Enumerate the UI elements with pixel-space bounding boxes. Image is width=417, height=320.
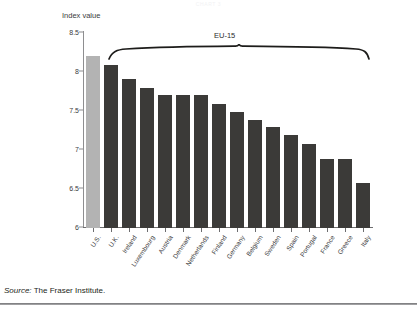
x-axis-label-text: U.K. — [107, 234, 120, 248]
x-axis-label-text: Spain — [285, 234, 300, 252]
x-axis-label-text: Austria — [157, 234, 174, 255]
bar-slot — [320, 33, 334, 228]
bar-portugal[interactable] — [302, 144, 316, 228]
x-axis-tick-mark — [309, 228, 310, 232]
x-axis-label-text: Finland — [210, 234, 228, 256]
y-axis-tick-mark — [79, 110, 83, 111]
source-text: The Fraser Institute. — [34, 286, 106, 295]
x-axis-tick-mark — [183, 228, 184, 232]
y-axis-tick-mark — [79, 32, 83, 33]
bar-luxembourg[interactable] — [140, 88, 154, 228]
source-prefix: Source: — [4, 286, 32, 295]
x-axis-tick-mark — [273, 228, 274, 232]
bar-slot — [176, 33, 190, 228]
y-axis-tick-mark — [79, 227, 83, 228]
x-axis-tick-mark — [129, 228, 130, 232]
x-axis-tick-mark — [111, 228, 112, 232]
x-axis-label-text: Portugal — [298, 234, 317, 258]
eu15-annotation-label: EU-15 — [214, 31, 235, 40]
x-axis-tick-mark — [93, 228, 94, 232]
bar-slot — [356, 33, 370, 228]
x-axis-tick-mark — [237, 228, 238, 232]
x-axis-label-text: Greece — [336, 234, 354, 256]
page-bottom-rule — [0, 303, 417, 305]
source-note: Source: The Fraser Institute. — [4, 286, 105, 295]
bar-slot — [338, 33, 352, 228]
x-axis-tick-mark — [201, 228, 202, 232]
bar-germany[interactable] — [230, 112, 244, 228]
y-axis-tick-label: 7.5 — [69, 107, 79, 114]
y-axis-tick-mark — [79, 71, 83, 72]
bar-sweden[interactable] — [266, 127, 280, 228]
x-axis-tick-mark — [291, 228, 292, 232]
bar-slot — [230, 33, 244, 228]
plot-area — [84, 32, 372, 228]
y-axis-tick-label: 8.5 — [69, 29, 79, 36]
bar-slot — [248, 33, 262, 228]
x-axis-label-text: Italy — [359, 234, 371, 248]
x-axis-label-text: Germany — [225, 234, 246, 260]
bar-u-k[interactable] — [104, 65, 118, 228]
x-axis-tick-mark — [147, 228, 148, 232]
x-axis-label-text: Sweden — [263, 234, 282, 257]
bar-slot — [284, 33, 298, 228]
bar-spain[interactable] — [284, 135, 298, 228]
bar-slot — [212, 33, 226, 228]
bar-u-s[interactable] — [86, 56, 100, 228]
bar-netherlands[interactable] — [194, 95, 208, 228]
bar-slot — [140, 33, 154, 228]
x-axis-tick-mark — [219, 228, 220, 232]
y-axis-tick-label: 6.5 — [69, 185, 79, 192]
bar-denmark[interactable] — [176, 95, 190, 228]
y-axis-tick-labels: 8.587.576.56 — [58, 0, 79, 320]
x-axis-label-text: Ireland — [121, 234, 138, 254]
y-axis-tick-mark — [79, 149, 83, 150]
x-axis-label-text: Belgium — [245, 234, 264, 257]
x-axis-tick-mark — [363, 228, 364, 232]
x-axis-tick-mark — [345, 228, 346, 232]
bar-slot — [86, 33, 100, 228]
y-axis-tick-mark — [79, 188, 83, 189]
bar-slot — [194, 33, 208, 228]
bar-slot — [266, 33, 280, 228]
bar-slot — [302, 33, 316, 228]
x-axis-label-text: France — [319, 234, 336, 255]
x-axis-tick-mark — [165, 228, 166, 232]
bar-slot — [158, 33, 172, 228]
bar-chart-figure: Index value 8.587.576.56 U.S.U.K.Ireland… — [0, 0, 417, 320]
x-axis-tick-mark — [255, 228, 256, 232]
x-axis-tick-mark — [327, 228, 328, 232]
bar-ireland[interactable] — [122, 79, 136, 228]
x-axis-label-text: U.S. — [89, 234, 102, 248]
bar-slot — [104, 33, 118, 228]
bar-slot — [122, 33, 136, 228]
